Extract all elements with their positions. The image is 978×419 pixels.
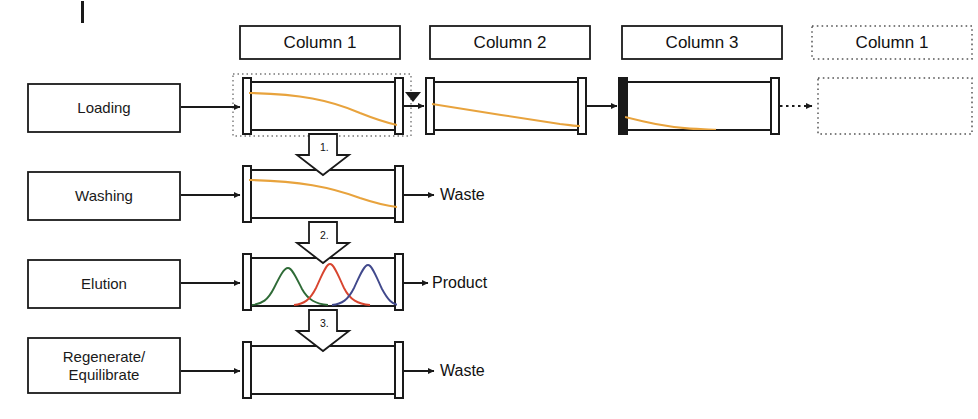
- stage-label-regenerate: Regenerate/ Equilibrate: [28, 338, 180, 393]
- column-header-label-2: Column 2: [430, 26, 590, 59]
- stage-label-washing: Washing: [28, 172, 180, 220]
- output-label-washing-waste: Waste: [440, 186, 485, 204]
- column-header-label-1: Column 1: [240, 26, 400, 59]
- arrow-column1-to-column2: [404, 92, 424, 106]
- output-label-regenerate-waste: Waste: [440, 362, 485, 380]
- column-vessel-loading-2: [426, 78, 586, 134]
- column-header-label-3: Column 3: [622, 26, 782, 59]
- column-vessel-loading-next: [818, 78, 972, 134]
- process-diagram: Column 1 Column 2 Column 3 Column 1 Load…: [0, 0, 978, 419]
- top-tick-mark: [81, 1, 84, 23]
- column-vessel-loading-3: [619, 78, 779, 134]
- step-arrow-label-2: 2.: [320, 229, 329, 241]
- column-header-label-next: Column 1: [812, 26, 972, 59]
- step-arrow-label-1: 1.: [320, 141, 329, 153]
- stage-label-loading: Loading: [28, 84, 180, 132]
- output-label-elution-product: Product: [432, 274, 487, 292]
- stage-label-elution: Elution: [28, 260, 180, 308]
- step-arrow-label-3: 3.: [320, 317, 329, 329]
- column-vessel-loading-1: [243, 78, 403, 134]
